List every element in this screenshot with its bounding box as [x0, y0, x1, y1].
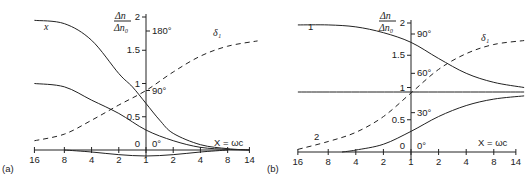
- y-tick-label: 2: [400, 17, 405, 28]
- phase-tick-label: 90°: [152, 85, 167, 96]
- x-tick-label: 16: [293, 156, 304, 167]
- phase-tick-label: 30°: [417, 107, 432, 118]
- curve-label-x: x: [43, 21, 49, 32]
- x-axis-label-a: X = ωc: [214, 137, 244, 148]
- x-tick-label: 2: [116, 154, 121, 165]
- y-tick-label: 0: [135, 138, 140, 149]
- x-tick-label: 2: [436, 156, 441, 167]
- curve-label-2: 2: [314, 131, 319, 142]
- x-tick-label: 4: [353, 156, 358, 167]
- y-axis-label-num-a: Δn: [114, 10, 126, 21]
- curve-label-1: 1: [308, 21, 313, 32]
- y-tick-label: 1.5: [392, 49, 405, 60]
- phase-tick-label: 0°: [152, 138, 161, 149]
- x-tick-label: 8: [225, 154, 230, 165]
- curve-label-delta1-b: δ₁: [481, 32, 489, 43]
- y-tick-label: 1: [400, 82, 405, 93]
- x-tick-label: 14: [511, 156, 522, 167]
- phase-tick-label: 180°: [152, 25, 172, 36]
- x-tick-label: 2: [381, 156, 386, 167]
- y-tick-label: 2: [135, 11, 140, 22]
- y-axis-label-num-b: Δn: [379, 10, 391, 21]
- x-tick-label: 8: [491, 156, 496, 167]
- x-tick-label: 8: [326, 156, 331, 167]
- x-tick-label: 2: [171, 154, 176, 165]
- panel-b: (b) 1 2 δ₁ X = ωc Δn Δn₀ 1684212481400.5…: [267, 10, 524, 174]
- x-axis-label-b: X = ωc: [478, 137, 508, 148]
- panel-label-a: (a): [2, 163, 14, 174]
- panel-label-b: (b): [267, 163, 279, 174]
- phase-tick-label: 0°: [417, 140, 426, 151]
- panel-a: (a) x δ₁ X = ωc Δn Δn₀ 1684212481400.511…: [2, 10, 258, 174]
- phase-tick-label: 60°: [417, 67, 432, 78]
- curve-label-delta1-a: δ₁: [213, 27, 221, 38]
- figure: (a) x δ₁ X = ωc Δn Δn₀ 1684212481400.511…: [0, 0, 530, 182]
- x-tick-label: 1: [408, 156, 413, 167]
- x-tick-label: 4: [464, 156, 469, 167]
- x-tick-label: 8: [62, 154, 67, 165]
- series-x-line: [34, 20, 249, 150]
- x-tick-label: 16: [29, 154, 40, 165]
- x-tick-label: 4: [198, 154, 203, 165]
- y-tick-label: 0.5: [392, 114, 405, 125]
- x-tick-label: 14: [244, 154, 255, 165]
- y-tick-label: 1: [135, 78, 140, 89]
- x-tick-label: 4: [89, 154, 94, 165]
- y-tick-label: 1.5: [127, 44, 140, 55]
- y-axis-label-den-a: Δn₀: [113, 22, 129, 33]
- y-tick-label: 0: [400, 140, 405, 151]
- phase-tick-label: 90°: [417, 28, 432, 39]
